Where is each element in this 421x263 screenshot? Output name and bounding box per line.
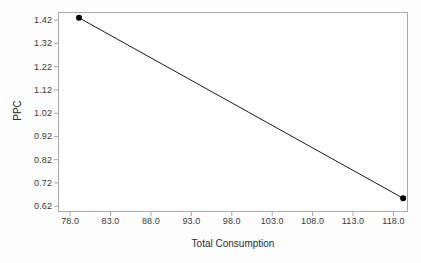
y-axis-title: PPC: [12, 81, 23, 141]
y-tick-label: 0.72: [6, 179, 52, 188]
x-axis-tick-labels: 78.083.088.093.098.0103.0108.0113.0118.0: [0, 217, 421, 231]
y-tick-label: 1.22: [6, 63, 52, 72]
x-tick-label: 98.0: [212, 217, 252, 226]
y-tick-label: 1.32: [6, 39, 52, 48]
x-tick-label: 118.0: [373, 217, 413, 226]
x-tick-label: 113.0: [333, 217, 373, 226]
x-tick-label: 78.0: [50, 217, 90, 226]
y-tick-label: 1.42: [6, 16, 52, 25]
x-tick-label: 83.0: [91, 217, 131, 226]
x-tick-label: 108.0: [293, 217, 333, 226]
x-tick-label: 103.0: [252, 217, 292, 226]
y-tick-label: 0.62: [6, 202, 52, 211]
y-tick-label: 0.82: [6, 156, 52, 165]
x-axis-title: Total Consumption: [58, 238, 408, 249]
x-tick-label: 88.0: [131, 217, 171, 226]
x-tick-label: 93.0: [171, 217, 211, 226]
chart-figure: 1.421.321.221.121.020.920.820.720.62 78.…: [0, 0, 421, 263]
plot-area: [58, 12, 408, 212]
